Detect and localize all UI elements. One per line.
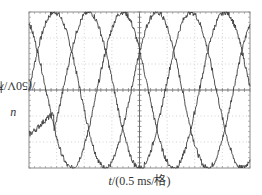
y-axis-variable: u xyxy=(11,106,17,121)
x-axis-label: t/(0.5 ms/格) xyxy=(29,171,250,189)
y-axis-unit: /(50V/格) xyxy=(0,78,36,96)
y-axis-label: u/(50V/格) xyxy=(2,52,22,128)
x-axis-unit: /(0.5 ms/格) xyxy=(112,174,171,188)
oscilloscope-plot xyxy=(0,0,262,195)
